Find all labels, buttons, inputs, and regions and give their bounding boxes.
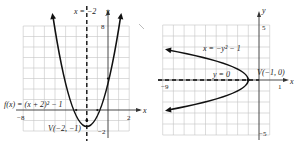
- right-graph: x = −y² − 1 y = 0 V(−1, 0) y x 5 −5 −9 1: [158, 6, 294, 140]
- right-x-axis-arrow-icon: [283, 78, 289, 82]
- right-x-min-tick: −9: [161, 83, 169, 91]
- right-vertex-point: [247, 79, 250, 82]
- right-function-label: x = −y² − 1: [202, 44, 241, 53]
- right-axis-of-symmetry-label: y = 0: [212, 70, 230, 79]
- right-y-axis-arrow-icon: [257, 11, 261, 17]
- right-y-min-tick: −5: [259, 130, 267, 138]
- left-y-min-tick: −2: [98, 128, 106, 136]
- left-vertex-label: V(−2, −1): [48, 124, 81, 133]
- graphs-figure: x = −2 y x 8 −2 −8 2 f(x) = (x + 2)² − 1…: [0, 0, 296, 142]
- left-curve-arrow-right-icon: [118, 13, 124, 20]
- left-curve-arrow-left-icon: [50, 13, 56, 20]
- right-y-axis-label: y: [261, 6, 266, 15]
- left-y-intercept: [107, 77, 109, 79]
- right-y-max-tick: 5: [262, 24, 266, 32]
- left-x-axis-arrow-icon: [136, 108, 142, 112]
- divider-mark: [139, 24, 144, 29]
- left-x-intercept-2: [96, 109, 98, 111]
- right-x-max-tick: 1: [278, 83, 282, 91]
- left-axis-of-symmetry-label: x = −2: [73, 7, 96, 16]
- left-x-min-tick: −8: [17, 114, 25, 122]
- left-y-max-tick: 8: [101, 23, 105, 31]
- left-x-max-tick: 2: [127, 114, 131, 122]
- right-curve-arrow-top-icon: [165, 48, 172, 54]
- left-x-axis-label: x: [142, 106, 147, 115]
- right-x-axis-label: x: [289, 77, 294, 86]
- left-function-label: f(x) = (x + 2)² − 1: [4, 100, 63, 109]
- left-y-axis-label: y: [105, 7, 110, 16]
- left-x-intercept-1: [75, 109, 77, 111]
- right-vertex-label: V(−1, 0): [257, 68, 285, 77]
- right-curve-arrow-bottom-icon: [165, 107, 172, 113]
- left-vertex-point: [85, 119, 88, 122]
- left-graph: x = −2 y x 8 −2 −8 2 f(x) = (x + 2)² − 1…: [4, 6, 147, 141]
